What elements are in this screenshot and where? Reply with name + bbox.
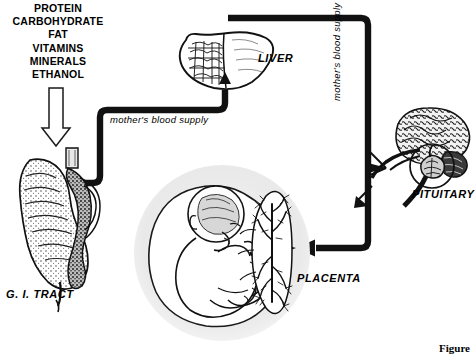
blood-vessel-pipe-icon	[228, 18, 368, 256]
nutrient-item: VITAMINS	[0, 42, 116, 55]
label-gi-tract: G. I. TRACT	[6, 288, 74, 300]
nutrient-item: ETHANOL	[0, 68, 116, 81]
arrow-up-icon	[217, 66, 234, 85]
arrow-left-icon	[296, 240, 315, 257]
label-placenta: PLACENTA	[297, 272, 361, 284]
placenta-icon	[238, 191, 296, 313]
nutrient-item: CARBOHYDRATE	[0, 15, 116, 28]
pituitary-gland-icon	[421, 146, 445, 178]
nutrient-intake-list: PROTEIN CARBOHYDRATE FAT VITAMINS MINERA…	[0, 2, 116, 81]
nutrient-item: FAT	[0, 28, 116, 41]
down-arrow-hollow-icon	[42, 88, 70, 146]
arrow-left-icon	[354, 150, 387, 208]
nutrient-item: PROTEIN	[0, 2, 116, 15]
label-liver: LIVER	[258, 52, 293, 64]
pituitary-inset-ring-icon	[410, 144, 454, 188]
label-pituitary: PITUITARY	[412, 188, 474, 200]
amniotic-sac-icon	[134, 165, 310, 341]
label-mothers-blood-supply-right: mother's blood supply	[331, 3, 342, 101]
fetus-icon	[149, 186, 281, 327]
figure-canvas: PROTEIN CARBOHYDRATE FAT VITAMINS MINERA…	[0, 0, 476, 357]
label-mothers-blood-supply-left: mother's blood supply	[110, 114, 208, 125]
figure-caption: Figure	[439, 342, 470, 354]
nutrient-item: MINERALS	[0, 55, 116, 68]
